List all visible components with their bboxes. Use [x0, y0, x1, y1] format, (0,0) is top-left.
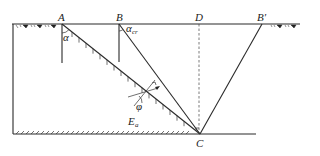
label-C: C: [196, 137, 204, 149]
label-alpha: α: [63, 31, 69, 43]
alpha-cr-arc: [119, 30, 123, 31]
ground-hatch-left: [16, 25, 56, 28]
label-Ea: E: [127, 115, 135, 127]
force-arrowhead: [155, 86, 160, 90]
label-A: A: [57, 11, 65, 23]
slip-plane-hatching: [72, 32, 184, 126]
passive-plane-BprimeC: [200, 24, 262, 134]
label-alpha-cr-sub: cr: [132, 28, 138, 36]
label-Ea-sub: a: [135, 121, 139, 129]
earth-pressure-diagram: A B D B′ C α α cr φ E a: [0, 0, 320, 156]
label-B: B: [116, 11, 123, 23]
label-D: D: [194, 11, 203, 23]
label-phi: φ: [136, 100, 142, 112]
label-B-prime: B′: [257, 11, 267, 23]
ground-hatch-right: [271, 25, 296, 28]
force-Ea-direction: [128, 88, 158, 97]
